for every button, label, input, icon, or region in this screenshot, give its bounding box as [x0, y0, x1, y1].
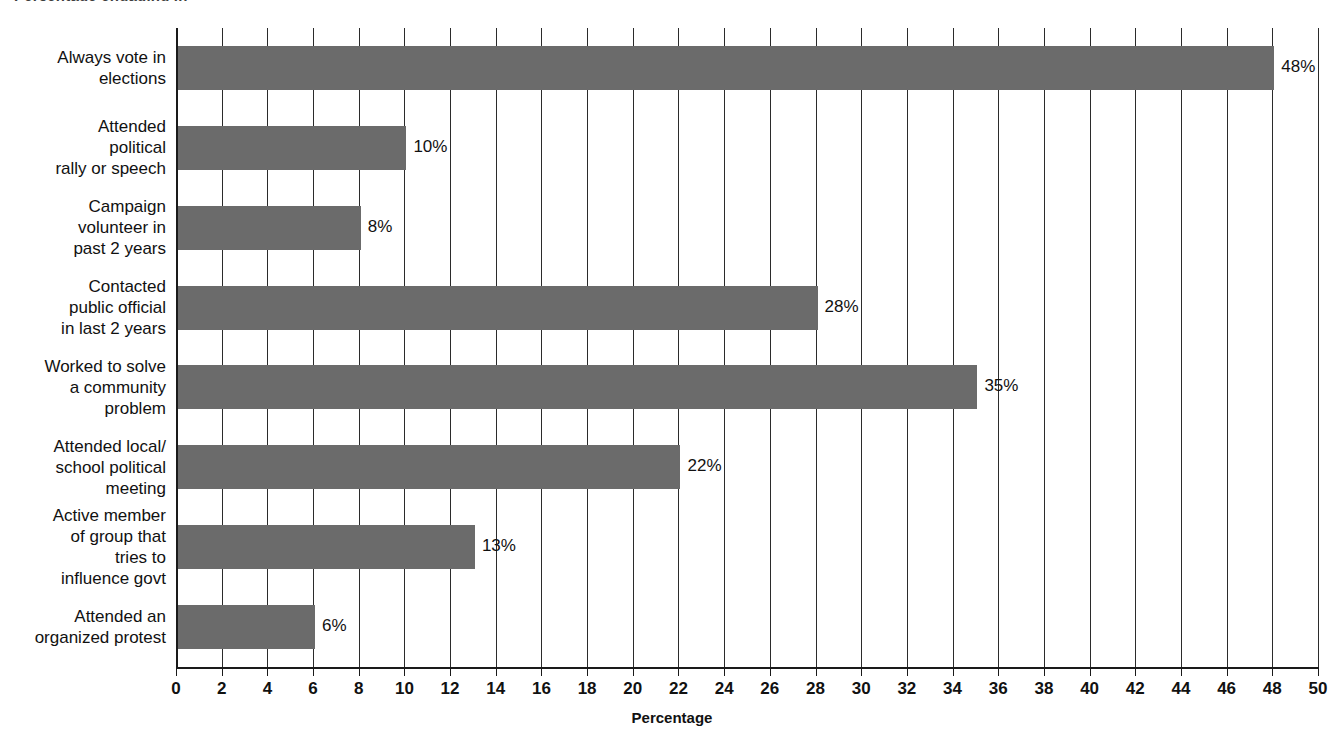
x-tick-10 [404, 667, 405, 676]
x-tick-18 [587, 667, 588, 676]
x-tick-label-30: 30 [852, 679, 871, 699]
bar-value-label: 6% [322, 616, 347, 636]
x-tick-36 [998, 667, 999, 676]
x-tick-label-42: 42 [1126, 679, 1145, 699]
x-tick-label-4: 4 [263, 679, 272, 699]
x-tick-label-14: 14 [486, 679, 505, 699]
x-tick-label-18: 18 [578, 679, 597, 699]
category-label: Worked to solve a community problem [44, 356, 166, 419]
x-tick-48 [1272, 667, 1273, 676]
category-label: Active member of group that tries to inf… [53, 505, 166, 589]
x-tick-label-12: 12 [441, 679, 460, 699]
x-tick-label-46: 46 [1217, 679, 1236, 699]
x-tick-label-2: 2 [217, 679, 226, 699]
x-axis-title: Percentage [0, 709, 1344, 726]
chart-title-remnant: Percentage engaging in [14, 0, 188, 1]
x-tick-50 [1318, 667, 1319, 676]
x-tick-0 [176, 667, 177, 676]
x-tick-label-6: 6 [308, 679, 317, 699]
bar-chart-figure: Percentage engaging in 02468101214161820… [0, 0, 1344, 743]
bar-value-label: 10% [413, 137, 447, 157]
bar-value-label: 35% [984, 376, 1018, 396]
x-tick-20 [633, 667, 634, 676]
x-tick-16 [541, 667, 542, 676]
category-label: Campaign volunteer in past 2 years [73, 196, 166, 259]
category-label: Attended political rally or speech [55, 116, 166, 179]
x-tick-label-32: 32 [897, 679, 916, 699]
x-axis-line [176, 667, 1319, 669]
bar-row: Attended an organized protest6% [0, 587, 1344, 667]
x-tick-label-22: 22 [669, 679, 688, 699]
x-tick-8 [359, 667, 360, 676]
bar-value-label: 22% [687, 456, 721, 476]
bar-row: Always vote in elections48% [0, 28, 1344, 108]
x-tick-label-34: 34 [943, 679, 962, 699]
category-label: Attended an organized protest [35, 606, 166, 648]
bar [178, 525, 475, 569]
bar [178, 286, 818, 330]
x-tick-14 [496, 667, 497, 676]
x-tick-26 [770, 667, 771, 676]
bar [178, 126, 406, 170]
x-tick-label-48: 48 [1263, 679, 1282, 699]
bar-row: Contacted public official in last 2 year… [0, 268, 1344, 348]
x-tick-label-38: 38 [1034, 679, 1053, 699]
category-label: Attended local/ school political meeting [54, 436, 166, 499]
x-tick-label-24: 24 [715, 679, 734, 699]
x-tick-label-40: 40 [1080, 679, 1099, 699]
x-tick-label-26: 26 [760, 679, 779, 699]
bar-value-label: 28% [825, 297, 859, 317]
bar [178, 46, 1274, 90]
bar-row: Attended local/ school political meeting… [0, 427, 1344, 507]
x-tick-2 [222, 667, 223, 676]
x-tick-label-50: 50 [1309, 679, 1328, 699]
x-tick-label-0: 0 [171, 679, 180, 699]
x-tick-6 [313, 667, 314, 676]
category-label: Contacted public official in last 2 year… [61, 276, 166, 339]
bar-value-label: 13% [482, 536, 516, 556]
bar [178, 365, 977, 409]
x-tick-22 [678, 667, 679, 676]
x-tick-46 [1227, 667, 1228, 676]
x-tick-label-20: 20 [623, 679, 642, 699]
x-tick-32 [907, 667, 908, 676]
bar-row: Worked to solve a community problem35% [0, 348, 1344, 428]
x-tick-42 [1135, 667, 1136, 676]
bar [178, 605, 315, 649]
x-tick-30 [861, 667, 862, 676]
bar-value-label: 8% [368, 217, 393, 237]
x-tick-label-36: 36 [989, 679, 1008, 699]
x-tick-label-16: 16 [532, 679, 551, 699]
x-tick-44 [1181, 667, 1182, 676]
category-label: Always vote in elections [57, 47, 166, 89]
x-tick-label-44: 44 [1171, 679, 1190, 699]
x-tick-4 [267, 667, 268, 676]
bar-value-label: 48% [1281, 57, 1315, 77]
x-tick-label-8: 8 [354, 679, 363, 699]
bar-row: Attended political rally or speech10% [0, 108, 1344, 188]
x-tick-40 [1090, 667, 1091, 676]
x-tick-34 [953, 667, 954, 676]
x-tick-label-28: 28 [806, 679, 825, 699]
x-tick-28 [816, 667, 817, 676]
x-tick-38 [1044, 667, 1045, 676]
x-tick-12 [450, 667, 451, 676]
bar-row: Campaign volunteer in past 2 years8% [0, 188, 1344, 268]
bar [178, 206, 361, 250]
bar [178, 445, 680, 489]
x-tick-label-10: 10 [395, 679, 414, 699]
x-tick-24 [724, 667, 725, 676]
bar-row: Active member of group that tries to inf… [0, 507, 1344, 587]
